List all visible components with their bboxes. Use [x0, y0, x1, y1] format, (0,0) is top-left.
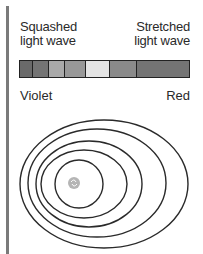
wavefront-ellipse-2 [28, 129, 166, 237]
galaxy-source-icon [68, 177, 80, 189]
doppler-wavefronts-diagram [0, 0, 203, 254]
wavefront-ellipse-3 [36, 141, 142, 227]
wavefront-ellipse-1 [20, 120, 188, 248]
